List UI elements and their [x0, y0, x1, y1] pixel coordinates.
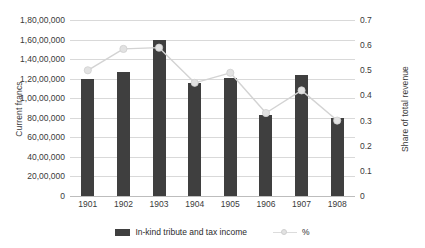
y-axis-right-tick-label: 0 [360, 192, 365, 201]
y-axis-left-tick-label: 1,00,00,000 [20, 94, 65, 103]
percent-marker-1905 [227, 69, 234, 76]
percent-marker-1902 [120, 45, 127, 52]
x-axis-tick-label: 1905 [213, 199, 249, 209]
y-axis-left-tick-label: 1,80,00,000 [20, 16, 65, 25]
line-series [70, 20, 355, 196]
legend-label-line: % [302, 227, 310, 237]
percent-line [88, 48, 337, 121]
x-axis-tick-label: 1902 [106, 199, 142, 209]
y-axis-left-tick-label: 1,40,00,000 [20, 55, 65, 64]
y-axis-right-tick-label: 0.7 [360, 16, 372, 25]
y-axis-right-tick-label: 0.1 [360, 167, 372, 176]
percent-marker-1904 [191, 79, 198, 86]
y-axis-left-tick-label: 1,20,00,000 [20, 75, 65, 84]
line-marker-swatch-icon [273, 229, 297, 236]
y-axis-left-tick-label: 0 [60, 192, 65, 201]
percent-marker-1901 [84, 67, 91, 74]
plot-area [70, 20, 355, 196]
y-axis-right-ticks: 00.10.20.30.40.50.60.7 [357, 0, 413, 248]
percent-marker-1908 [334, 117, 341, 124]
percent-markers [84, 44, 341, 124]
bar-swatch-icon [115, 229, 130, 236]
x-axis-tick-label: 1907 [284, 199, 320, 209]
y-axis-left-tick-label: 80,00,000 [27, 114, 65, 123]
legend-item-bars: In-kind tribute and tax income [115, 227, 247, 237]
y-axis-right-tick-label: 0.5 [360, 66, 372, 75]
legend-label-bars: In-kind tribute and tax income [135, 227, 247, 237]
percent-marker-1903 [155, 44, 162, 51]
y-axis-left-ticks: 020,00,00040,00,00060,00,00080,00,0001,0… [12, 0, 68, 248]
chart-container: Current francs Share of total revenue 02… [0, 0, 425, 248]
gridline [70, 196, 355, 197]
y-axis-right-tick-label: 0.6 [360, 41, 372, 50]
x-axis-tick-label: 1901 [70, 199, 106, 209]
y-axis-left-tick-label: 1,60,00,000 [20, 36, 65, 45]
y-axis-right-tick-label: 0.4 [360, 91, 372, 100]
y-axis-right-tick-label: 0.2 [360, 142, 372, 151]
y-axis-right-tick-label: 0.3 [360, 117, 372, 126]
y-axis-left-tick-label: 40,00,000 [27, 153, 65, 162]
y-axis-left-tick-label: 20,00,000 [27, 172, 65, 181]
percent-marker-1906 [262, 109, 269, 116]
chart-legend: In-kind tribute and tax income % [0, 227, 425, 237]
y-axis-left-tick-label: 60,00,000 [27, 133, 65, 142]
x-axis-tick-label: 1904 [177, 199, 213, 209]
percent-marker-1907 [298, 87, 305, 94]
x-axis-tick-label: 1903 [141, 199, 177, 209]
x-axis-labels: 19011902190319041905190619071908 [70, 199, 355, 209]
x-axis-tick-label: 1906 [248, 199, 284, 209]
x-axis-tick-label: 1908 [319, 199, 355, 209]
legend-item-line: % [273, 227, 310, 237]
